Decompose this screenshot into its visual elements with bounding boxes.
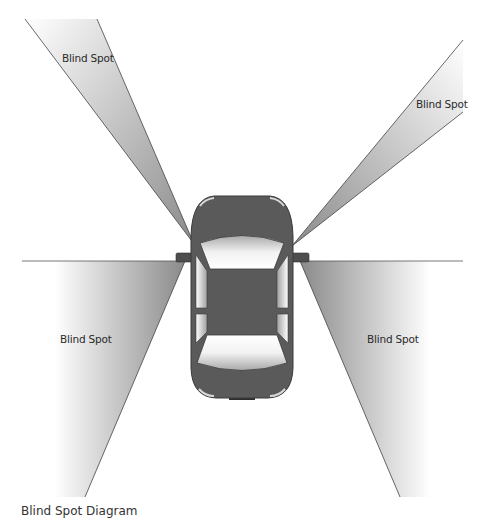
blind-spot-zone-top-right <box>292 40 463 246</box>
diagram-caption: Blind Spot Diagram <box>21 504 138 518</box>
label-top-left: Blind Spot <box>62 52 114 64</box>
blind-spot-zone-bottom-right <box>300 261 463 497</box>
windshield <box>200 236 284 270</box>
right-mirror <box>291 253 309 262</box>
blind-spot-zone-bottom-left <box>22 261 185 497</box>
label-top-right: Blind Spot <box>416 98 468 110</box>
label-bottom-right: Blind Spot <box>367 333 419 345</box>
rear-window <box>197 335 287 371</box>
blind-spot-diagram <box>0 0 485 532</box>
car-top-view <box>176 196 309 400</box>
label-bottom-left: Blind Spot <box>60 333 112 345</box>
